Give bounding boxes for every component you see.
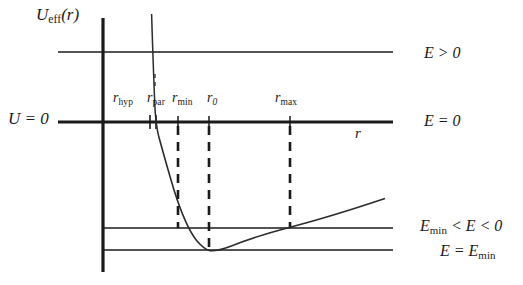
tick-label-r-par: rpar bbox=[147, 91, 165, 107]
tick-label-r-hyp-sub: hyp bbox=[118, 97, 133, 107]
x-axis-label: r bbox=[355, 126, 361, 141]
energy-label-e-zero: E = 0 bbox=[424, 113, 461, 129]
tick-label-r-zero: r0 bbox=[207, 91, 217, 107]
energy-label-e-between: Emin < E < 0 bbox=[420, 218, 502, 236]
tick-label-r-min-sub: min bbox=[177, 97, 192, 107]
y-axis-label-subscript: eff bbox=[48, 13, 61, 26]
tick-label-r-hyp: rhyp bbox=[113, 91, 133, 107]
potential-curve-well bbox=[159, 136, 385, 251]
tick-label-r-zero-sub: 0 bbox=[212, 97, 217, 107]
energy-label-e-greater-zero: E > 0 bbox=[424, 45, 461, 61]
origin-label: U = 0 bbox=[8, 110, 49, 127]
tick-label-r-min: rmin bbox=[172, 91, 193, 107]
tick-label-r-max: rmax bbox=[275, 91, 297, 107]
y-axis-label: Ueff(r) bbox=[36, 6, 79, 26]
energy-label-e-min: E = Emin bbox=[440, 243, 496, 261]
tick-label-r-par-sub: par bbox=[152, 97, 164, 107]
y-axis-label-base: U bbox=[36, 5, 48, 24]
y-axis-label-argument: (r) bbox=[61, 5, 79, 24]
tick-label-r-max-sub: max bbox=[280, 97, 297, 107]
effective-potential-figure: Ueff(r) U = 0 r rhyp rpar rmin r0 rmax E… bbox=[0, 0, 523, 285]
